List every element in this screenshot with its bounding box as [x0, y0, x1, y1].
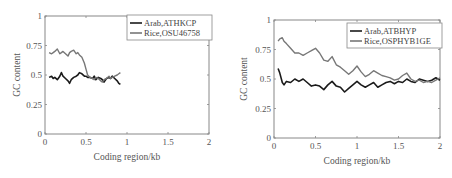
y-tick-label: 1 — [267, 15, 272, 25]
y-tick-label: 0 — [38, 129, 43, 139]
x-tick-label: 2 — [207, 137, 212, 147]
y-tick-label: 0.25 — [26, 100, 42, 110]
x-tick-label: 0 — [43, 137, 48, 147]
chart-right: 00.511.5200.250.50.751Coding region/kbGC… — [239, 15, 442, 166]
x-tick-label: 1.5 — [162, 137, 174, 147]
y-tick-label: 0.75 — [26, 41, 42, 51]
y-tick-label: 0 — [267, 133, 272, 143]
y-axis-label: GC content — [239, 57, 249, 101]
chart-left: 00.511.5200.250.50.751Coding region/kbGC… — [12, 11, 212, 162]
x-tick-label: 0 — [272, 141, 277, 151]
x-tick-label: 1.5 — [393, 141, 405, 151]
y-tick-label: 0.5 — [31, 70, 43, 80]
x-tick-label: 1 — [125, 137, 130, 147]
y-tick-label: 0.75 — [255, 45, 271, 55]
x-tick-label: 0.5 — [80, 137, 92, 147]
legend-entry: Arab,ATBHYP — [364, 26, 416, 36]
legend-entry: Arab,ATHKCP — [144, 18, 196, 28]
y-tick-label: 1 — [38, 11, 43, 21]
y-axis-label: GC content — [12, 53, 22, 97]
x-tick-label: 1 — [355, 141, 360, 151]
y-tick-label: 0.25 — [255, 104, 271, 114]
legend-entry: Rice,OSPHYB1GE — [364, 36, 431, 46]
x-axis-label: Coding region/kb — [324, 156, 391, 166]
x-axis-label: Coding region/kb — [94, 152, 161, 162]
x-tick-label: 0.5 — [310, 141, 322, 151]
legend: Arab,ATHKCPRice,OSU46758 — [127, 15, 212, 40]
series-line-0 — [49, 73, 120, 85]
legend-entry: Rice,OSU46758 — [144, 28, 200, 38]
y-tick-label: 0.5 — [260, 74, 272, 84]
series-line-0 — [278, 68, 440, 92]
x-tick-label: 2 — [438, 141, 443, 151]
figure: 00.511.5200.250.50.751Coding region/kbGC… — [0, 0, 452, 178]
legend: Arab,ATBHYPRice,OSPHYB1GE — [347, 23, 442, 48]
